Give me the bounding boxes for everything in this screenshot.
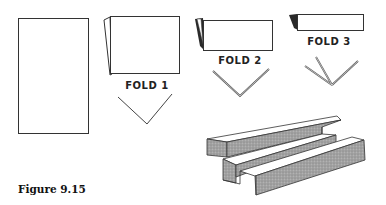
- fold-3-sheet: [289, 14, 364, 31]
- figure-9-15: FOLD 1 FOLD 2 FOLD 3 Figure 9.15: [0, 0, 386, 205]
- fold-1-crease-profile: [118, 94, 172, 124]
- fold-2-sheet: [195, 18, 273, 51]
- folded-channel-3d: [207, 116, 365, 195]
- unfolded-sheet: [19, 19, 89, 134]
- fold-3-label: FOLD 3: [307, 36, 350, 47]
- fold-3-crease-profile: [305, 57, 358, 85]
- figure-caption: Figure 9.15: [18, 183, 86, 195]
- fold-1-label: FOLD 1: [125, 80, 168, 91]
- fold-1-sheet: [104, 17, 180, 76]
- fold-diagram: [0, 0, 386, 205]
- fold-2-crease-profile: [213, 69, 269, 96]
- fold-2-label: FOLD 2: [218, 55, 261, 66]
